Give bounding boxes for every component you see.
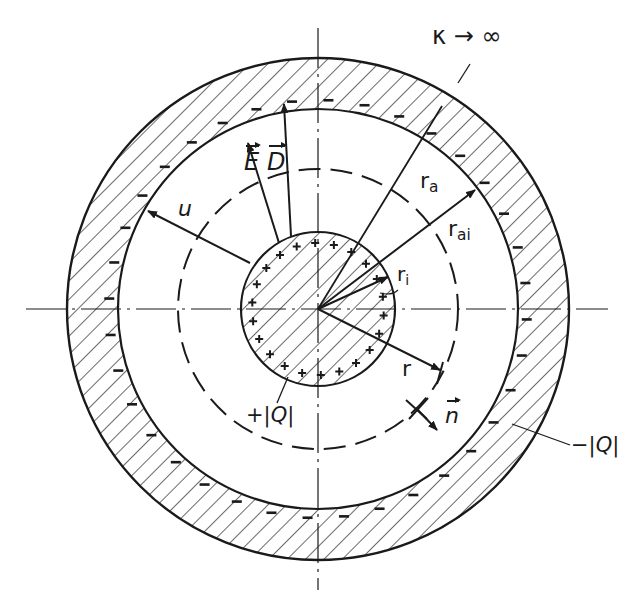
minus-sign	[499, 212, 509, 215]
minus-sign	[360, 104, 370, 107]
minus-sign	[426, 132, 436, 135]
minus-sign	[266, 511, 276, 514]
radius-ra-label: ra	[420, 170, 438, 195]
conductivity-label: κ → ∞	[432, 24, 502, 48]
minus-sign	[455, 155, 465, 158]
minus-sign	[520, 282, 530, 285]
minus-sign	[522, 318, 532, 321]
D-vector-symbol: D	[267, 150, 285, 174]
positive-charge-label: +|Q|	[246, 405, 294, 426]
minus-sign	[160, 166, 170, 169]
minus-sign	[408, 494, 418, 497]
minus-sign	[375, 507, 385, 510]
minus-sign	[232, 500, 242, 503]
n-vector-symbol: n	[445, 405, 459, 427]
minus-sign	[187, 141, 197, 144]
minus-sign	[480, 182, 490, 185]
field-D-label: D	[267, 150, 285, 174]
minus-sign	[506, 389, 516, 392]
minus-sign	[513, 246, 523, 249]
normal-n-label: n	[445, 405, 459, 427]
minus-sign	[251, 108, 261, 111]
minus-sign	[171, 461, 181, 464]
minus-sign	[146, 434, 156, 437]
field-E-label: E	[244, 150, 259, 174]
E-vector-symbol: E	[244, 150, 259, 174]
minus-sign	[109, 261, 119, 264]
radius-r-label: r	[402, 358, 411, 380]
minus-sign	[113, 369, 123, 372]
minus-sign	[218, 122, 228, 125]
minus-sign	[323, 99, 333, 102]
minus-sign	[287, 100, 297, 103]
capacitor-diagram	[0, 0, 632, 611]
minus-sign	[489, 421, 499, 424]
minus-sign	[106, 334, 116, 337]
radius-ri-label: ri	[397, 264, 409, 287]
minus-sign	[439, 474, 449, 477]
minus-sign	[303, 516, 313, 519]
minus-sign	[104, 297, 114, 300]
minus-sign	[137, 194, 147, 197]
minus-sign	[466, 450, 476, 453]
minus-sign	[120, 226, 130, 229]
potential-u-label: u	[178, 198, 192, 220]
minus-sign	[339, 515, 349, 518]
minus-sign	[517, 354, 527, 357]
minus-sign	[200, 483, 210, 486]
minus-sign	[394, 115, 404, 118]
radius-rai-label: rai	[448, 218, 471, 243]
negative-charge-label: −|Q|	[571, 435, 619, 456]
minus-sign	[127, 403, 137, 406]
